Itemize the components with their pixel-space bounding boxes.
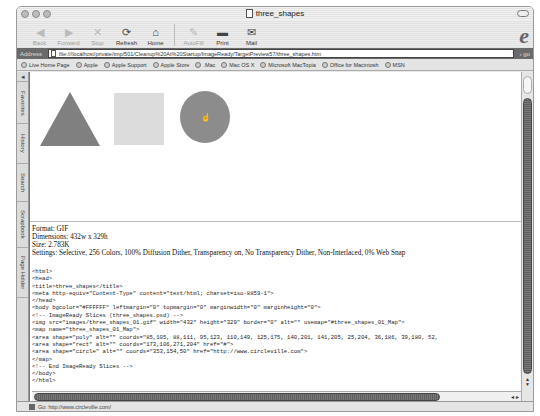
tab-search[interactable]: Search [17, 164, 29, 202]
document-icon [246, 9, 253, 18]
favorite-label: Apple [84, 62, 98, 68]
favorite-label: Mac OS X [229, 62, 254, 68]
favorite-microsoft-mactopia[interactable]: Microsoft MacTopia [260, 62, 315, 68]
page-icon [51, 50, 56, 57]
address-bar: Address file:///localhost/private/tmp/50… [17, 48, 533, 59]
stop-label: Stop [91, 40, 103, 46]
scroll-track-top [523, 76, 532, 94]
refresh-icon: ⟳ [120, 26, 134, 38]
favorite-apple[interactable]: Apple [76, 62, 98, 68]
code-line: <area shape="rect" alt="" coords="173,10… [32, 341, 438, 348]
toolbar-toggle-button[interactable] [517, 10, 529, 17]
autofill-button[interactable]: ✎ AutoFill [179, 26, 208, 48]
mail-label: Mail [246, 40, 257, 46]
autofill-icon: ✎ [187, 26, 201, 38]
address-label: Address [20, 51, 48, 57]
explorer-bar-toggle-icon[interactable]: ◂ [17, 72, 29, 82]
mail-icon: ✉ [245, 26, 259, 38]
horizontal-scrollbar[interactable]: ◂ ▸ [32, 391, 521, 401]
address-input[interactable]: file:///localhost/private/tmp/501/Cleanu… [48, 49, 514, 58]
status-icon [29, 404, 35, 410]
favorite-label: Live Home Page [29, 62, 70, 68]
forward-label: Forward [57, 40, 79, 46]
code-line: </body> [32, 370, 438, 377]
tab-page-holder[interactable]: Page Holder [17, 248, 29, 298]
refresh-label: Refresh [116, 40, 137, 46]
status-bar: Go: http://www.circleville.com/ [17, 401, 533, 411]
vertical-scroll-arrows[interactable]: ▲▼ [522, 377, 533, 387]
print-button[interactable]: ▬ Print [208, 26, 237, 48]
main-area: ◂ Favorites History Search Scrapbook Pag… [17, 72, 533, 401]
code-line: <!-- End ImageReady Slices --> [32, 363, 438, 370]
tab-scrapbook[interactable]: Scrapbook [17, 202, 29, 248]
triangle-shape[interactable] [40, 92, 100, 146]
title-bar: three_shapes [17, 7, 533, 20]
home-label: Home [147, 40, 163, 46]
tab-history[interactable]: History [17, 124, 29, 164]
back-button[interactable]: ◀ Back [25, 26, 54, 48]
globe-icon [153, 62, 159, 68]
square-shape[interactable] [114, 93, 164, 145]
print-icon: ▬ [216, 26, 230, 38]
vertical-scrollbar[interactable]: ▲▼ [521, 72, 533, 401]
toolbar: ◀ Back ▶ Forward ✕ Stop ⟳ Refresh ⌂ Home… [17, 20, 533, 48]
favorite-live-home-page[interactable]: Live Home Page [21, 62, 70, 68]
favorite-mac[interactable]: .Mac [195, 62, 215, 68]
globe-icon [21, 62, 27, 68]
stop-button[interactable]: ✕ Stop [83, 26, 112, 48]
autofill-label: AutoFill [183, 40, 203, 46]
go-button[interactable]: › go [514, 51, 530, 57]
size-text: Size: 2.783K [32, 241, 405, 249]
globe-icon [104, 62, 110, 68]
browser-window: three_shapes ◀ Back ▶ Forward ✕ Stop ⟳ R… [16, 6, 534, 412]
dimensions-text: Dimensions: 432w x 329h [32, 233, 405, 241]
horizontal-scroll-thumb[interactable] [34, 393, 440, 401]
tab-favorites[interactable]: Favorites [17, 84, 29, 124]
mail-button[interactable]: ✉ Mail [237, 26, 266, 48]
forward-button[interactable]: ▶ Forward [54, 26, 83, 48]
horizontal-scroll-arrows[interactable]: ◂ ▸ [511, 393, 519, 400]
home-icon: ⌂ [149, 26, 163, 38]
globe-icon [260, 62, 266, 68]
status-text: Go: http://www.circleville.com/ [38, 404, 111, 410]
favorite-mac-os-x[interactable]: Mac OS X [221, 62, 254, 68]
address-value: file:///localhost/private/tmp/501/Cleanu… [59, 51, 321, 57]
page-content: ☝ Format: GIF Dimensions: 432w x 329h Si… [29, 72, 533, 401]
globe-icon [322, 62, 328, 68]
code-line: </html> [32, 377, 438, 384]
toolbar-separator [174, 24, 175, 46]
code-line: <head> [32, 275, 438, 282]
image-preview: ☝ [30, 72, 521, 222]
vertical-scroll-thumb[interactable] [523, 98, 532, 374]
code-line: <area shape="circle" alt="" coords="353,… [32, 348, 438, 355]
back-label: Back [33, 40, 46, 46]
tab-label: History [20, 134, 26, 153]
globe-icon [195, 62, 201, 68]
html-source: <html><head><title>three_shapes</title><… [32, 268, 438, 385]
code-line: <body bgcolor="#FFFFFF" leftmargin="0" t… [32, 304, 438, 311]
code-line: <!-- ImageReady Slices (three_shapes.psd… [32, 312, 438, 319]
favorite-msn[interactable]: MSN [385, 62, 405, 68]
window-title-text: three_shapes [256, 9, 304, 18]
window-title: three_shapes [17, 9, 533, 18]
stop-x-icon: ✕ [91, 26, 105, 38]
print-label: Print [216, 40, 228, 46]
globe-icon [221, 62, 227, 68]
tab-label: Scrapbook [20, 210, 26, 239]
globe-icon [76, 62, 82, 68]
tab-label: Favorites [20, 91, 26, 116]
code-line: </map> [32, 356, 438, 363]
favorite-label: Office for Macintosh [330, 62, 379, 68]
favorite-apple-support[interactable]: Apple Support [104, 62, 147, 68]
explorer-bar-tabs: ◂ Favorites History Search Scrapbook Pag… [17, 72, 29, 401]
code-line: <meta http-equiv="Content-Type" content=… [32, 290, 438, 297]
refresh-button[interactable]: ⟳ Refresh [112, 26, 141, 48]
home-button[interactable]: ⌂ Home [141, 26, 170, 48]
code-line: <img src="images/three_shapes_01.gif" wi… [32, 319, 438, 326]
favorite-office-for-macintosh[interactable]: Office for Macintosh [322, 62, 379, 68]
favorite-label: MSN [393, 62, 405, 68]
favorite-label: Apple Support [112, 62, 147, 68]
favorite-label: Microsoft MacTopia [268, 62, 315, 68]
go-label: go [523, 51, 530, 57]
favorite-apple-store[interactable]: Apple Store [153, 62, 190, 68]
